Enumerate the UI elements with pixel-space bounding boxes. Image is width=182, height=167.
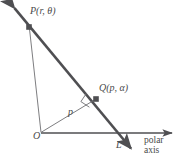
label-polar-axis: polar axis xyxy=(144,136,164,156)
label-distance-p: p xyxy=(68,107,73,118)
segment-op xyxy=(29,28,41,132)
label-point-p: P(r, θ) xyxy=(30,6,55,17)
label-point-q: Q(p, α) xyxy=(99,83,128,94)
line-l-group xyxy=(15,8,132,148)
line-l xyxy=(15,8,132,148)
label-origin: O xyxy=(33,131,40,142)
label-polar-axis-line2: axis xyxy=(144,146,164,156)
point-marker-q xyxy=(93,96,99,102)
label-line-l: L xyxy=(116,140,122,151)
polar-geometry-figure: P(r, θ) Q(p, α) O p L polar axis xyxy=(0,0,182,167)
point-marker-p xyxy=(26,24,32,30)
